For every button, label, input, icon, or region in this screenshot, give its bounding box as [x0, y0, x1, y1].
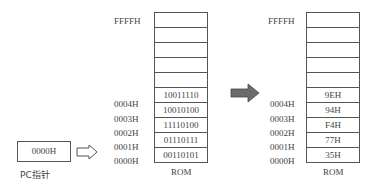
left-address-label: 0000H [114, 156, 139, 166]
right-rom-label: ROM [323, 167, 344, 177]
left-address-label: 0003H [114, 114, 139, 124]
pc-label: PC指针 [20, 168, 50, 181]
right-address-label: 0001H [270, 142, 295, 152]
right-rom-cell: 77H [307, 133, 359, 148]
left-top-address: FFFFH [114, 16, 141, 26]
left-rom-cell [155, 13, 207, 28]
left-rom-table: 10011110 10010100 11110100 01110111 0011… [154, 12, 208, 163]
left-rom-cell: 01110111 [155, 133, 207, 148]
right-rom-cell [307, 43, 359, 58]
right-rom-cell: 9EH [307, 88, 359, 103]
left-rom-cell: 10011110 [155, 88, 207, 103]
right-top-address: FFFFH [268, 16, 295, 26]
left-rom-cell: 11110100 [155, 118, 207, 133]
right-rom-cell: F4H [307, 118, 359, 133]
right-rom-table: 9EH 94H F4H 77H 35H [306, 12, 360, 163]
pc-register-box: 0000H [17, 141, 71, 162]
left-rom-cell [155, 58, 207, 73]
left-rom-cell [155, 28, 207, 43]
right-address-label: 0000H [270, 156, 295, 166]
right-address-label: 0004H [270, 99, 295, 109]
arrow-right-icon [230, 83, 260, 103]
left-address-label: 0004H [114, 99, 139, 109]
right-rom-cell [307, 13, 359, 28]
left-rom-cell [155, 73, 207, 88]
right-rom-cell: 35H [307, 148, 359, 163]
left-rom-cell [155, 43, 207, 58]
right-address-label: 0002H [270, 128, 295, 138]
right-rom-cell [307, 28, 359, 43]
left-address-label: 0001H [114, 142, 139, 152]
left-rom-label: ROM [171, 167, 192, 177]
left-rom-cell: 00110101 [155, 148, 207, 163]
left-rom-cell: 10010100 [155, 103, 207, 118]
right-address-label: 0003H [270, 114, 295, 124]
left-address-label: 0002H [114, 128, 139, 138]
right-rom-cell: 94H [307, 103, 359, 118]
pc-pointer-arrow-icon [76, 144, 98, 160]
right-rom-cell [307, 73, 359, 88]
right-rom-cell [307, 58, 359, 73]
